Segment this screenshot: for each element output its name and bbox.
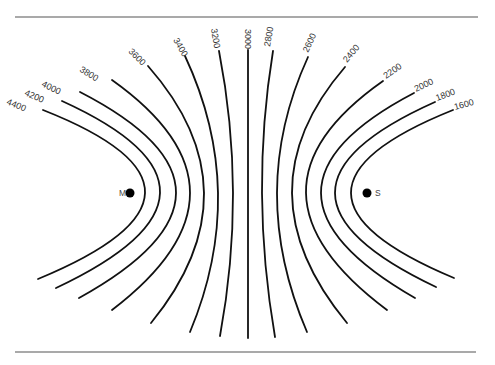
contour-label-1800: 1800 — [434, 87, 456, 103]
reference-points: MS — [119, 188, 381, 198]
contour-line-2400 — [292, 67, 347, 323]
contour-lines — [38, 50, 454, 338]
contour-label-3800: 3800 — [78, 64, 100, 83]
contour-diagram: 4400420040003800360034003200300028002600… — [0, 0, 495, 365]
contour-label-4400: 4400 — [5, 97, 27, 114]
contour-label-1600: 1600 — [453, 97, 475, 112]
contour-label-2800: 2800 — [262, 26, 275, 47]
contour-line-2800 — [262, 51, 275, 337]
contour-label-2600: 2600 — [301, 31, 319, 53]
contour-label-2400: 2400 — [341, 43, 362, 65]
contour-label-2000: 2000 — [413, 76, 435, 94]
contour-label-2200: 2200 — [381, 61, 403, 81]
contour-line-3200 — [219, 51, 233, 336]
contour-labels: 4400420040003800360034003200300028002600… — [5, 26, 475, 113]
point-m-label: M — [119, 188, 126, 198]
contour-label-3600: 3600 — [127, 46, 148, 67]
contour-label-3200: 3200 — [209, 28, 222, 49]
contour-label-3000: 3000 — [243, 29, 253, 49]
point-s-label: S — [375, 188, 381, 198]
contour-label-3400: 3400 — [171, 36, 190, 58]
point-s-dot — [363, 189, 372, 198]
contour-label-4200: 4200 — [23, 88, 45, 105]
point-m-dot — [126, 189, 135, 198]
